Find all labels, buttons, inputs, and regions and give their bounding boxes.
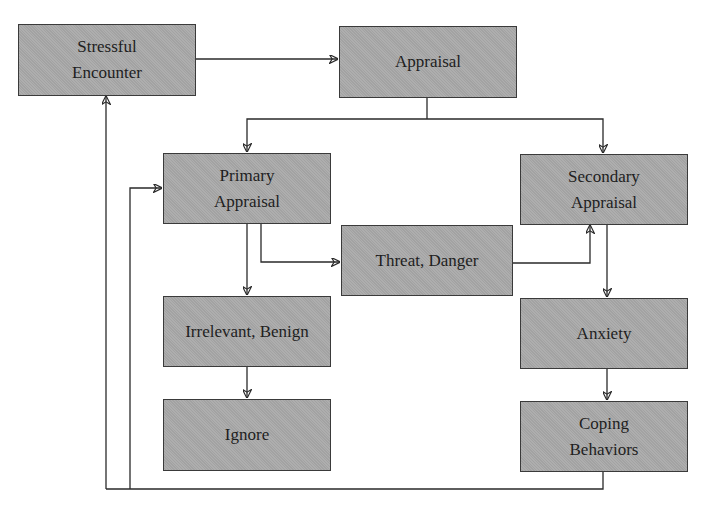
node-irrelevant-benign: Irrelevant, Benign bbox=[163, 296, 331, 367]
node-ignore: Ignore bbox=[163, 399, 331, 471]
node-label: Appraisal bbox=[395, 49, 461, 75]
node-label: Primary Appraisal bbox=[214, 163, 280, 215]
edge-threat-to-secondary bbox=[513, 225, 590, 263]
node-threat-danger: Threat, Danger bbox=[341, 225, 513, 296]
edge-appraisal-to-primary bbox=[247, 119, 427, 152]
edge-primary-to-threat bbox=[261, 223, 340, 262]
edge-coping-to-primary bbox=[130, 188, 162, 489]
node-appraisal: Appraisal bbox=[339, 26, 517, 98]
node-secondary-appraisal: Secondary Appraisal bbox=[520, 154, 688, 225]
node-label: Stressful Encounter bbox=[72, 34, 142, 86]
edge-coping-feedback-bottom bbox=[106, 471, 603, 489]
node-primary-appraisal: Primary Appraisal bbox=[163, 153, 331, 224]
node-label: Ignore bbox=[225, 422, 269, 448]
node-label: Threat, Danger bbox=[376, 248, 479, 274]
node-label: Secondary Appraisal bbox=[568, 164, 640, 216]
node-anxiety: Anxiety bbox=[520, 298, 688, 369]
node-stressful-encounter: Stressful Encounter bbox=[18, 24, 196, 96]
node-label: Irrelevant, Benign bbox=[185, 319, 309, 345]
node-label: Anxiety bbox=[577, 321, 632, 347]
edge-appraisal-to-secondary bbox=[427, 119, 603, 153]
node-coping-behaviors: Coping Behaviors bbox=[520, 401, 688, 472]
stress-appraisal-diagram: Stressful Encounter Appraisal Primary Ap… bbox=[0, 0, 705, 506]
node-label: Coping Behaviors bbox=[570, 411, 639, 463]
